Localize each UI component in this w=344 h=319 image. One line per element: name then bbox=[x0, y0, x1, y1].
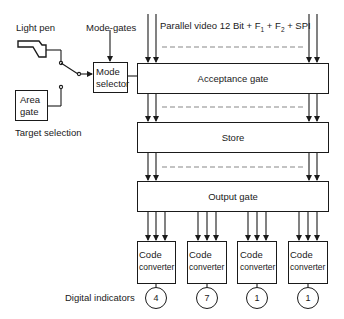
area-gate-line2: gate bbox=[20, 106, 39, 118]
code-converter-line1: Code bbox=[189, 249, 212, 261]
digital-indicator-4: 1 bbox=[297, 287, 319, 309]
code-converter-line1: Code bbox=[290, 249, 313, 261]
store-label: Store bbox=[222, 132, 245, 144]
mode-selector-box: Mode selector bbox=[93, 62, 128, 93]
area-gate-line1: Area bbox=[20, 94, 40, 106]
mode-selector-line2: selector bbox=[96, 78, 129, 90]
pv-suffix: + SPI bbox=[285, 20, 311, 31]
mode-selector-line1: Mode bbox=[96, 66, 120, 78]
code-converter-line2: converter bbox=[139, 261, 174, 273]
acceptance-gate-box: Acceptance gate bbox=[137, 63, 329, 94]
acceptance-gate-label: Acceptance gate bbox=[198, 73, 269, 85]
light-pen-label: Light pen bbox=[16, 22, 55, 33]
code-converter-line2: converter bbox=[189, 261, 224, 273]
code-converter-box-3: Code converter bbox=[237, 241, 277, 284]
digital-indicator-2: 7 bbox=[196, 287, 218, 309]
code-converter-line2: converter bbox=[290, 261, 325, 273]
code-converter-line2: converter bbox=[240, 261, 275, 273]
light-pen-icon bbox=[18, 41, 46, 57]
area-gate-box: Area gate bbox=[15, 90, 48, 121]
code-converter-line1: Code bbox=[240, 249, 263, 261]
code-converter-line1: Code bbox=[139, 249, 162, 261]
parallel-video-label: Parallel video 12 Bit + F1 + F2 + SPI bbox=[160, 20, 311, 35]
digital-indicator-1: 4 bbox=[145, 287, 167, 309]
store-box: Store bbox=[137, 122, 329, 153]
mode-gates-label: Mode-gates bbox=[86, 22, 136, 33]
code-converter-box-4: Code converter bbox=[288, 241, 328, 284]
pv-prefix: Parallel video 12 Bit + F bbox=[160, 20, 261, 31]
pv-mid: + F bbox=[264, 20, 281, 31]
digital-indicator-3: 1 bbox=[246, 287, 268, 309]
digital-indicators-label: Digital indicators bbox=[65, 292, 135, 303]
code-converter-box-2: Code converter bbox=[187, 241, 227, 284]
target-selection-label: Target selection bbox=[15, 127, 82, 138]
output-gate-box: Output gate bbox=[137, 181, 329, 212]
output-gate-label: Output gate bbox=[208, 191, 258, 203]
code-converter-box-1: Code converter bbox=[137, 241, 176, 284]
